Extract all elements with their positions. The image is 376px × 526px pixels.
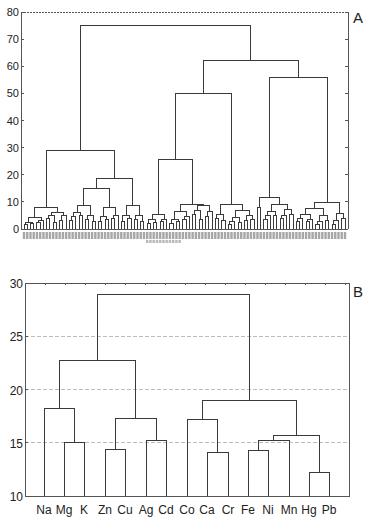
dendrogram-link (134, 219, 137, 229)
leaf-label (55, 232, 57, 239)
dendrogram-link (259, 198, 280, 207)
dendrogram-panel-a: 01020304050607080 (0, 0, 376, 250)
y-tick-label: 20 (7, 169, 19, 181)
dendrogram-link (197, 206, 209, 211)
leaf-label-ag: Ag (139, 503, 154, 517)
y-tick-label: 80 (7, 6, 19, 18)
leaf-label-overflow (178, 240, 180, 243)
leaf-label (221, 232, 223, 239)
y-tick-label: 60 (7, 60, 19, 72)
y-tick-label: 20 (10, 384, 24, 398)
leaf-label (331, 232, 333, 239)
leaf-label (175, 232, 177, 239)
dendrogram-link (308, 219, 313, 229)
dendrogram-link (298, 218, 303, 229)
dendrogram-link (207, 211, 212, 229)
leaf-label (263, 232, 265, 239)
dendrogram-link (183, 220, 186, 229)
dendrogram-link (236, 210, 249, 217)
leaf-label (214, 232, 216, 239)
leaf-label-overflow (165, 240, 167, 243)
dendrogram-link (115, 418, 156, 449)
dendrogram-link (269, 77, 327, 203)
leaf-label (191, 232, 193, 239)
dendrogram-link (290, 214, 293, 229)
dendrogram-link (99, 221, 102, 229)
dendrogram-link (207, 452, 228, 496)
dendrogram-link (222, 220, 225, 229)
leaf-label-ni: Ni (262, 503, 273, 517)
leaf-label (65, 232, 67, 239)
leaf-label (305, 232, 307, 239)
dendrogram-link (248, 450, 268, 496)
leaf-label (165, 232, 167, 239)
leaf-label-zn: Zn (98, 503, 112, 517)
leaf-label (201, 232, 203, 239)
dendrogram-link (103, 208, 115, 216)
dendrogram-link (251, 219, 254, 229)
dendrogram-link (84, 188, 110, 208)
dendrogram-link (53, 222, 56, 229)
leaf-label (62, 232, 64, 239)
dendrogram-link (47, 218, 50, 229)
leaf-label-k: K (80, 503, 88, 517)
leaf-label (285, 232, 287, 239)
dendrogram-link (97, 179, 133, 205)
dendrogram-link (199, 220, 202, 229)
leaf-label (318, 232, 320, 239)
panel-label-a: A (353, 9, 363, 26)
leaf-label (292, 232, 294, 239)
dendrogram-link (126, 205, 139, 216)
dendrogram-link (87, 216, 93, 222)
dendrogram-link (300, 214, 310, 219)
leaf-label-pb: Pb (322, 503, 337, 517)
leaf-label (114, 232, 116, 239)
dendrogram-link (69, 220, 72, 229)
dendrogram-link (193, 215, 196, 229)
dendrogram-link (61, 216, 66, 229)
leaf-label (140, 232, 142, 239)
leaf-label (344, 232, 346, 239)
dendrogram-link (158, 160, 192, 214)
leaf-label (253, 232, 255, 239)
leaf-label (308, 232, 310, 239)
dendrogram-link (316, 225, 319, 229)
dendrogram-link (44, 409, 74, 496)
leaf-label-overflow (152, 240, 154, 243)
dendrogram-link (105, 220, 108, 229)
leaf-label (302, 232, 304, 239)
leaf-label-hg: Hg (301, 503, 316, 517)
dendrogram-link (80, 26, 250, 151)
leaf-label (172, 232, 174, 239)
panel-label-b: B (353, 283, 363, 300)
leaf-label-overflow (159, 240, 161, 243)
leaf-label (217, 232, 219, 239)
dendrogram-link (296, 221, 299, 229)
leaf-label (159, 232, 161, 239)
dendrogram-link (257, 207, 260, 229)
leaf-label (188, 232, 190, 239)
leaf-label (341, 232, 343, 239)
dendrogram-link (97, 295, 249, 400)
leaf-label (169, 232, 171, 239)
leaf-label (42, 232, 44, 239)
dendrogram-link (185, 216, 190, 229)
dendrogram-link (326, 221, 329, 229)
dendrogram-link (264, 220, 267, 229)
leaf-label (182, 232, 184, 239)
leaf-label-overflow (146, 240, 148, 243)
dendrogram-link (187, 419, 218, 496)
dendrogram-link (29, 217, 41, 222)
leaf-label (81, 232, 83, 239)
dendrogram-link (228, 225, 231, 229)
dendrogram-link (202, 400, 296, 435)
leaf-label-cr: Cr (222, 503, 235, 517)
leaf-label (104, 232, 106, 239)
dendrogram-link (305, 209, 323, 216)
leaf-label-mn: Mn (281, 503, 298, 517)
leaf-label (282, 232, 284, 239)
dendrogram-link (162, 219, 167, 229)
leaf-label (45, 232, 47, 239)
dendrogram-link (30, 224, 33, 229)
dendrogram-link (238, 222, 241, 229)
